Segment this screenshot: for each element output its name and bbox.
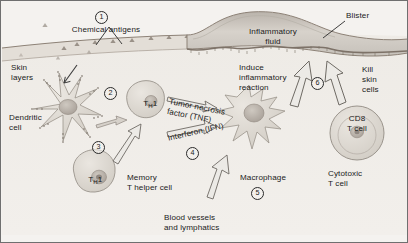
label-kill-line2: skin (362, 75, 377, 85)
marker-6: 6 (311, 77, 324, 90)
label-induce-line1: Induce (239, 63, 264, 73)
marker-2: 2 (104, 87, 117, 100)
marker-3: 3 (92, 141, 105, 154)
label-skin-layers-line2: layers (11, 73, 33, 83)
label-memory-t-helper-line2: T helper cell (127, 183, 172, 193)
label-dendritic-cell-line2: cell (9, 123, 22, 133)
label-th1-cell-upper: TH1 (134, 89, 157, 119)
label-kill-line3: cells (362, 85, 379, 95)
marker-5: 5 (251, 187, 264, 200)
th1-memory-1: 1 (98, 175, 103, 184)
label-cd8-line2: T cell (332, 124, 382, 134)
label-blood-vessels-line2: and lymphatics (164, 223, 219, 233)
th1-upper-1: 1 (153, 99, 158, 108)
label-chemical-antigens: Chemical antigens (61, 25, 151, 35)
marker-4: 4 (186, 147, 199, 160)
label-macrophage: Macrophage (240, 173, 286, 183)
label-cytotoxic-line1: Cytotoxic (328, 169, 362, 179)
label-kill-line1: Kill (362, 65, 373, 75)
label-cd8-line1: CD8 (332, 114, 382, 124)
diagram-canvas: 1 Chemical antigens Skin layers Dendriti… (0, 0, 408, 243)
label-induce-line3: reaction (239, 83, 269, 93)
label-dendritic-cell-line1: Dendritic (9, 113, 42, 123)
label-blister: Blister (346, 11, 369, 21)
label-blood-vessels-line1: Blood vessels (164, 213, 215, 223)
label-cytotoxic-line2: T cell (328, 179, 348, 189)
label-inflammatory-fluid-line2: fluid (233, 37, 313, 47)
label-th1-cell-memory: TH1 (79, 165, 102, 195)
label-memory-t-helper-line1: Memory (127, 173, 157, 183)
label-inflammatory-fluid-line1: Inflammatory (233, 27, 313, 37)
label-induce-line2: inflammatory (239, 73, 287, 83)
marker-1: 1 (95, 11, 108, 24)
label-skin-layers-line1: Skin (11, 63, 27, 73)
